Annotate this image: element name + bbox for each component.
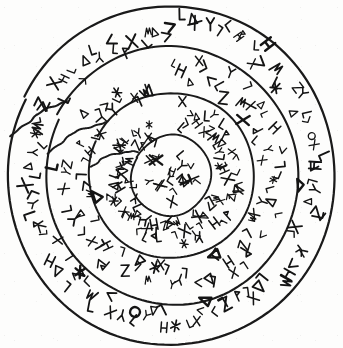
inscribed-disc-drawing (0, 0, 343, 348)
figure-root (0, 0, 343, 348)
figure-background (0, 0, 343, 348)
